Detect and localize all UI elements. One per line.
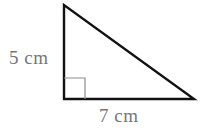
vertical-side-length-label: 5 cm bbox=[9, 48, 48, 67]
horizontal-side-length-label: 7 cm bbox=[99, 106, 138, 125]
triangle-outline bbox=[64, 5, 194, 99]
